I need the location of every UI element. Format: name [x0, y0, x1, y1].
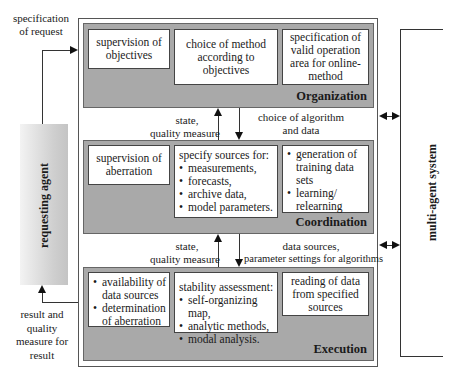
result-line-horizontal: [42, 302, 78, 303]
organization-label: Organization: [296, 89, 367, 104]
result-label-line: quality: [10, 322, 74, 336]
requesting-agent-block: requesting agent: [20, 124, 68, 285]
box-line: supervision of: [96, 152, 161, 165]
flow-choice-algorithm-label: choice of algorithm and data: [246, 111, 356, 136]
box-line: supervision of: [96, 36, 161, 49]
flow-label-line: state,: [150, 114, 214, 127]
box-line: reading of data: [291, 275, 360, 288]
coord-box-specify-sources: specify sources for: measurements, forec…: [174, 145, 278, 218]
request-line-vertical: [42, 50, 43, 124]
execution-label: Execution: [314, 342, 367, 357]
box-bullet-list: self-organizing map, analytic methods, m…: [179, 294, 277, 346]
box-line: valid operation: [290, 44, 361, 57]
flow-down-arrow-1: [235, 132, 243, 140]
request-label-line: of request: [2, 25, 80, 38]
box-bullet-list: generation of training data sets learnin…: [287, 148, 366, 213]
flow-up-arrow-1: [214, 108, 222, 116]
bullet-item: model parameters.: [179, 201, 277, 214]
flow-state-quality-label-2: state, quality measure: [150, 240, 214, 265]
mas-arrow-left-2: [379, 241, 387, 249]
exec-box-stability-assessment: stability assessment: self-organizing ma…: [174, 272, 278, 333]
flow-data-sources-label: data sources, parameter settings for alg…: [244, 240, 378, 265]
bullet-item: generation of training data sets: [287, 148, 366, 187]
result-label: result and quality measure for result: [10, 308, 74, 362]
bullet-item: measurements,: [179, 162, 277, 175]
mas-bracket-side: [400, 29, 401, 356]
flow-label-line: quality measure: [150, 127, 214, 140]
request-label-line: specification: [2, 12, 80, 25]
bullet-item: learning/ relearning: [287, 187, 348, 213]
box-line: sources: [291, 301, 360, 314]
box-line: according to: [186, 51, 266, 64]
box-line: objectives: [186, 64, 266, 77]
flow-down-line-1: [239, 108, 240, 132]
flow-label-line: parameter settings for algorithms: [244, 253, 378, 266]
box-bullet-list: availability of data sources determinati…: [93, 276, 167, 328]
result-arrow-head: [38, 285, 46, 293]
org-box-valid-operation-area: specification of valid operation area fo…: [282, 29, 369, 85]
result-line-vertical: [42, 293, 43, 302]
mas-arrow-right-1: [392, 112, 400, 120]
flow-state-quality-label-1: state, quality measure: [150, 114, 214, 139]
box-line: specification of: [290, 31, 361, 44]
flow-down-arrow-2: [235, 259, 243, 267]
flow-label-line: data sources,: [244, 240, 378, 253]
org-box-supervision-objectives: supervision of objectives: [88, 29, 170, 69]
box-line: method: [290, 70, 361, 83]
bullet-item: self-organizing map,: [179, 294, 277, 320]
result-label-line: result: [10, 349, 74, 363]
box-heading: stability assessment:: [179, 281, 277, 294]
org-box-choice-method: choice of method according to objectives: [174, 29, 278, 85]
exec-box-availability: availability of data sources determinati…: [88, 272, 170, 327]
bullet-item: determination of aberration: [93, 302, 167, 328]
request-label: specification of request: [2, 12, 80, 37]
mas-bracket-top: [400, 29, 443, 30]
box-line: choice of method: [186, 38, 266, 51]
box-line: objectives: [96, 49, 161, 62]
request-line-horizontal: [42, 50, 70, 51]
mas-bracket-bottom: [400, 356, 443, 357]
bullet-item: forecasts,: [179, 175, 277, 188]
mas-arrow-right-2: [392, 241, 400, 249]
flow-up-arrow-2: [214, 234, 222, 242]
box-line: aberration: [96, 165, 161, 178]
coordination-label: Coordination: [295, 215, 367, 230]
flow-label-line: and data: [246, 124, 356, 137]
box-heading: specify sources for:: [179, 149, 277, 162]
flow-label-line: quality measure: [150, 253, 214, 266]
mas-arrow-left-1: [379, 112, 387, 120]
result-label-line: measure for: [10, 335, 74, 349]
flow-label-line: choice of algorithm: [246, 111, 356, 124]
coord-box-training-data: generation of training data sets learnin…: [282, 145, 369, 213]
exec-box-reading-data: reading of data from specified sources: [282, 272, 369, 316]
result-label-line: result and: [10, 308, 74, 322]
box-bullet-list: measurements, forecasts, archive data, m…: [179, 162, 277, 214]
requesting-agent-label: requesting agent: [37, 146, 52, 266]
flow-down-line-2: [239, 234, 240, 259]
bullet-item: availability of data sources: [93, 276, 167, 302]
flow-label-line: state,: [150, 240, 214, 253]
request-arrow-head: [70, 46, 78, 54]
multi-agent-system-label: multi-agent system: [425, 133, 440, 253]
box-line: from specified: [291, 288, 360, 301]
box-line: area for online-: [290, 57, 361, 70]
bullet-item: modal analysis.: [179, 333, 277, 346]
bullet-item: analytic methods,: [179, 320, 277, 333]
coord-box-supervision-aberration: supervision of aberration: [88, 145, 170, 185]
bullet-item: archive data,: [179, 188, 277, 201]
